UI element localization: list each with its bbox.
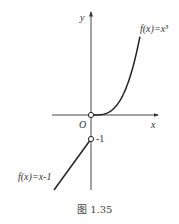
y-axis-label: y: [79, 12, 85, 23]
linear-function-label: f(x)=x-1: [18, 171, 51, 183]
open-point-minus-one: [88, 136, 93, 141]
cubic-curve: [94, 37, 140, 115]
linear-segment: [54, 139, 91, 190]
cubic-function-label: f(x)=x³: [140, 23, 169, 35]
origin-label: O: [79, 119, 86, 130]
figure-caption: 图 1.35: [77, 204, 112, 215]
minus-one-label: -1: [96, 133, 104, 144]
piecewise-function-graph: y x O -1 f(x)=x³ f(x)=x-1 图 1.35: [0, 0, 179, 224]
open-point-origin: [88, 112, 93, 117]
x-axis-label: x: [150, 119, 156, 130]
